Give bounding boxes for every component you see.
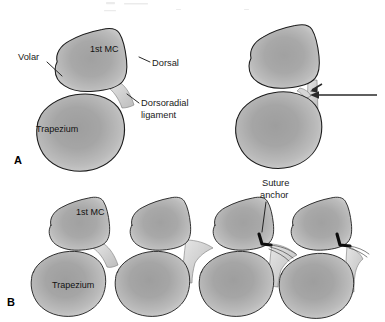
panel-a: Volar 1st MC Dorsal Trapezium Dorsoradia… <box>14 25 377 172</box>
panel-letter-b: B <box>7 296 15 308</box>
view-a-right <box>236 25 377 169</box>
bone-trapezium <box>115 251 190 316</box>
bone-first-metacarpal <box>213 197 274 250</box>
leader-dorsal <box>139 57 150 62</box>
label-suture-anchor-line2: anchor <box>260 190 288 200</box>
bone-first-metacarpal <box>291 197 352 250</box>
bone-trapezium <box>236 92 322 169</box>
label-dorsal: Dorsal <box>152 58 179 68</box>
panel-b: 1st MC Trapezium <box>7 178 369 318</box>
bone-first-metacarpal <box>130 197 191 250</box>
arrow-long-horizontal <box>310 91 377 99</box>
label-volar: Volar <box>18 52 39 62</box>
bone-first-metacarpal <box>49 197 110 250</box>
scan-artifacts <box>104 2 249 11</box>
view-b-1: 1st MC Trapezium <box>31 197 118 316</box>
panel-letter-a: A <box>14 154 22 166</box>
figure-canvas: Volar 1st MC Dorsal Trapezium Dorsoradia… <box>0 0 385 322</box>
view-a-left: Volar 1st MC Dorsal Trapezium Dorsoradia… <box>18 29 189 172</box>
label-trapezium: Trapezium <box>36 124 78 134</box>
bone-trapezium <box>199 251 274 316</box>
bone-first-metacarpal <box>55 29 127 92</box>
bone-first-metacarpal <box>249 25 319 89</box>
label-trapezium: Trapezium <box>52 280 94 290</box>
label-first-mc: 1st MC <box>76 207 105 217</box>
label-suture-anchor-line1: Suture <box>262 178 289 188</box>
label-first-mc: 1st MC <box>90 44 119 54</box>
anatomical-figure: Volar 1st MC Dorsal Trapezium Dorsoradia… <box>0 0 385 322</box>
bone-trapezium <box>279 253 354 318</box>
label-dorsoradial-ligament-line2: ligament <box>141 110 177 120</box>
label-dorsoradial-ligament-line1: Dorsoradial <box>141 98 189 108</box>
view-b-2 <box>115 197 213 316</box>
